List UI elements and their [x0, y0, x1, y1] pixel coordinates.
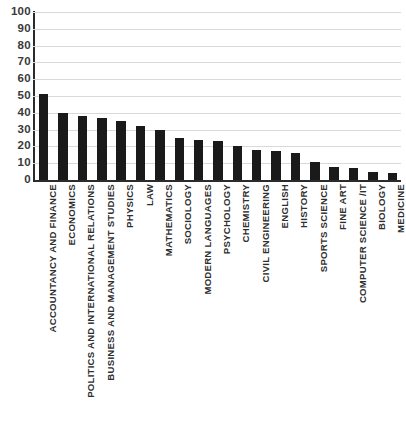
x-axis-category-label: ENGLISH — [280, 184, 290, 228]
y-axis-tick-label: 10 — [0, 157, 31, 169]
y-axis-tick-label: 80 — [0, 40, 31, 52]
bar — [39, 94, 49, 180]
x-axis-category-label: SOCIOLOGY — [183, 184, 193, 244]
x-axis-category-label: POLITICS AND INTERNATIONAL RELATIONS — [86, 184, 96, 398]
y-axis-tick-label: 70 — [0, 57, 31, 69]
y-axis-tick-label: 100 — [0, 6, 31, 18]
bar — [388, 173, 398, 180]
x-axis-category-label: ECONOMICS — [67, 184, 77, 245]
x-axis-category-label: COMPUTER SCIENCE /IT — [358, 184, 368, 303]
bar — [349, 168, 359, 180]
bar — [116, 121, 126, 180]
y-axis-tick-label: 90 — [0, 23, 31, 35]
x-axis-category-label: MODERN LANGUAGES — [203, 184, 213, 295]
x-axis-category-label: CHEMISTRY — [241, 184, 251, 242]
y-axis-tick-label: 30 — [0, 124, 31, 136]
bar — [78, 116, 88, 180]
bar-chart: 0102030405060708090100 ACCOUNTANCY AND F… — [0, 0, 406, 436]
y-axis-tick-labels: 0102030405060708090100 — [0, 0, 31, 192]
x-axis-category-label: MATHEMATICS — [164, 184, 174, 256]
x-axis-category-label: CIVIL ENGINEERING — [261, 184, 271, 282]
bar — [155, 130, 165, 180]
bar — [194, 140, 204, 180]
x-axis-category-label: LAW — [145, 184, 155, 206]
x-axis-line — [33, 180, 401, 182]
bar — [97, 118, 107, 180]
bar — [213, 141, 223, 180]
bar-series — [33, 12, 401, 180]
x-axis-category-label: PHYSICS — [125, 184, 135, 228]
x-axis-category-label: SPORTS SCIENCE — [319, 184, 329, 272]
x-axis-category-label: FINE ART — [338, 184, 348, 230]
plot-area — [33, 12, 401, 180]
y-axis-tick-label: 40 — [0, 107, 31, 119]
y-axis-tick-label: 60 — [0, 73, 31, 85]
bar — [233, 146, 243, 180]
bar — [368, 172, 378, 180]
x-axis-category-label: BUSINESS AND MANAGEMENT STUDIES — [106, 184, 116, 381]
bar — [252, 150, 262, 180]
bar — [291, 153, 301, 180]
bar — [175, 138, 185, 180]
x-axis-category-label: ACCOUNTANCY AND FINANCE — [48, 184, 58, 332]
y-axis-tick-label: 0 — [0, 174, 31, 186]
x-axis-category-label: MEDICINE — [396, 184, 406, 233]
x-axis-category-label: HISTORY — [299, 184, 309, 228]
x-axis-category-label: BIOLOGY — [377, 184, 387, 230]
x-axis-category-label: PSYCHOLOGY — [222, 184, 232, 254]
x-axis-category-labels: ACCOUNTANCY AND FINANCEECONOMICSPOLITICS… — [33, 184, 401, 434]
bar — [310, 162, 320, 180]
bar — [58, 113, 68, 180]
bar — [271, 151, 281, 180]
y-axis-tick-label: 20 — [0, 141, 31, 153]
bar — [329, 167, 339, 180]
y-axis-tick-label: 50 — [0, 90, 31, 102]
bar — [136, 126, 146, 180]
